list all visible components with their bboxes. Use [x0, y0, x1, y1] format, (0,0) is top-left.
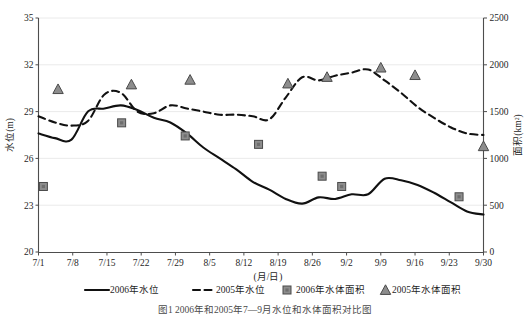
legend-item: 2006年水体面积 — [283, 284, 365, 295]
y-axis-left-label: 水位(m) — [4, 118, 16, 152]
x-axis: 7/17/87/157/227/298/58/128/198/269/29/99… — [32, 252, 492, 268]
legend-item: 2005年水位 — [193, 284, 265, 295]
chart-legend: 2006年水位2005年水位2006年水体面积2005年水体面积 — [85, 284, 461, 295]
y-tick-label: 32 — [24, 60, 34, 70]
y2-tick-label: 2500 — [490, 13, 509, 23]
x-tick-label: 8/12 — [235, 258, 252, 268]
figure-caption: 图1 2006年和2005年7—9月水位和水体面积对比图 — [158, 304, 372, 315]
water-area-2005-marker — [185, 75, 195, 85]
y-axis-right-label: 面积(km²) — [512, 114, 524, 155]
water-area-2006-marker — [181, 132, 189, 140]
x-tick-label: 7/8 — [67, 258, 79, 268]
water-area-2005-marker — [283, 78, 293, 88]
legend-item: 2006年水位 — [85, 284, 159, 295]
series-2006-water-level — [39, 105, 484, 214]
water-area-2005-marker — [53, 84, 63, 94]
water-area-2006-marker — [39, 182, 47, 190]
y-tick-label: 35 — [24, 13, 34, 23]
water-area-2006-marker — [338, 182, 346, 190]
legend-label: 2006年水体面积 — [296, 284, 365, 295]
legend-label: 2006年水位 — [110, 284, 159, 295]
water-area-2006-marker — [318, 172, 326, 180]
x-tick-label: 7/1 — [32, 258, 44, 268]
x-tick-label: 7/22 — [133, 258, 150, 268]
water-area-2006-marker — [118, 119, 126, 127]
y2-tick-label: 1500 — [490, 107, 509, 117]
x-tick-label: 7/15 — [99, 258, 116, 268]
x-tick-label: 9/2 — [341, 258, 353, 268]
y2-tick-label: 1000 — [490, 154, 509, 164]
water-area-2005-marker — [410, 70, 420, 80]
y-tick-label: 26 — [24, 154, 34, 164]
x-tick-label: 9/9 — [375, 258, 387, 268]
water-area-2006-marker — [255, 140, 263, 148]
series-2005-water-area-markers — [53, 62, 489, 150]
water-area-2005-marker — [376, 62, 386, 72]
y2-tick-label: 500 — [490, 201, 505, 211]
x-tick-label: 8/19 — [270, 258, 287, 268]
y-tick-label: 20 — [24, 247, 34, 257]
y-tick-label: 29 — [24, 107, 34, 117]
x-tick-label: 8/5 — [204, 258, 216, 268]
water-area-2006-marker — [455, 193, 463, 201]
water-area-2005-marker — [478, 141, 488, 151]
left-y-axis: 202326293235 — [24, 13, 39, 257]
legend-label: 2005年水体面积 — [392, 284, 461, 295]
x-tick-label: 9/23 — [441, 258, 458, 268]
y2-tick-label: 0 — [490, 247, 495, 257]
series-2006-water-area-markers — [39, 119, 463, 201]
x-tick-label: 9/30 — [475, 258, 492, 268]
chart-figure: 202326293235 05001000150020002500 7/17/8… — [0, 0, 530, 319]
right-y-axis: 05001000150020002500 — [484, 13, 509, 257]
y2-tick-label: 2000 — [490, 60, 509, 70]
x-tick-label: 9/16 — [407, 258, 424, 268]
water-area-2005-marker — [126, 79, 136, 89]
gridlines — [39, 18, 484, 205]
x-tick-label: 8/26 — [304, 258, 321, 268]
legend-item: 2005年水体面积 — [380, 284, 461, 295]
x-tick-label: 7/29 — [167, 258, 184, 268]
x-axis-label: (月/日) — [254, 272, 283, 283]
y-tick-label: 23 — [24, 201, 34, 211]
chart-svg: 202326293235 05001000150020002500 7/17/8… — [0, 0, 530, 319]
legend-label: 2005年水位 — [216, 284, 265, 295]
